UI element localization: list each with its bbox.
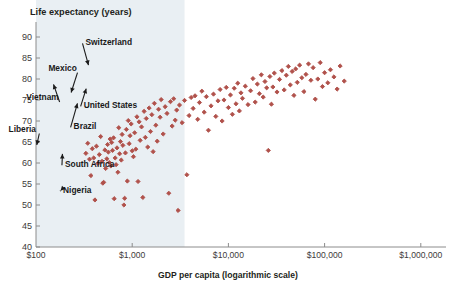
data-point — [234, 102, 238, 106]
x-axis-title: GDP per capita (logarithmic scale) — [158, 270, 298, 280]
y-tick-label: 85 — [22, 53, 32, 63]
data-point — [326, 81, 330, 85]
annotation-arrow — [60, 191, 61, 192]
data-point — [269, 102, 273, 106]
data-point — [211, 92, 215, 96]
data-point — [230, 112, 234, 116]
data-point — [272, 71, 276, 75]
data-point — [275, 90, 279, 94]
data-point — [222, 98, 226, 102]
y-tick-label: 80 — [22, 74, 32, 84]
annotation-label: South Africa — [65, 159, 115, 169]
data-point — [311, 66, 315, 70]
data-point — [200, 89, 204, 93]
annotation-label: Nigeria — [63, 185, 92, 195]
data-point — [216, 99, 220, 103]
data-point — [318, 61, 322, 65]
data-point — [292, 93, 296, 97]
data-point — [204, 95, 208, 99]
data-point — [243, 84, 247, 88]
data-point — [284, 73, 288, 77]
x-tick-label: $100,000 — [307, 250, 343, 260]
data-point — [277, 77, 281, 81]
data-point — [332, 75, 336, 79]
data-point — [309, 78, 313, 82]
data-point — [259, 73, 263, 77]
data-point — [268, 74, 272, 78]
y-tick-label: 65 — [22, 137, 32, 147]
annotation-label: Mexico — [48, 63, 76, 73]
data-point — [202, 110, 206, 114]
data-point — [338, 64, 342, 68]
data-point — [280, 69, 284, 73]
data-point — [295, 80, 299, 84]
data-point — [306, 62, 310, 66]
data-point — [294, 67, 298, 71]
data-point — [255, 82, 259, 86]
x-tick-label: $10,000 — [213, 250, 244, 260]
data-point — [206, 128, 210, 132]
data-point — [271, 85, 275, 89]
data-point — [253, 100, 257, 104]
data-point — [248, 89, 252, 93]
data-point — [185, 173, 189, 177]
data-point — [304, 72, 308, 76]
data-point — [232, 86, 236, 90]
data-point — [328, 68, 332, 72]
data-point — [187, 113, 191, 117]
data-point — [246, 103, 250, 107]
data-point — [196, 117, 200, 121]
x-tick-label: $1,000 — [119, 250, 146, 260]
data-point — [228, 93, 232, 97]
annotation-label: Liberia — [9, 124, 37, 134]
x-tick-label: $100 — [26, 250, 45, 260]
data-point — [300, 76, 304, 80]
data-point — [282, 88, 286, 92]
data-point — [240, 96, 244, 100]
y-tick-label: 90 — [22, 32, 32, 42]
data-point — [290, 69, 294, 73]
annotation-label: United States — [84, 100, 138, 110]
data-point — [323, 71, 327, 75]
y-tick-label: 45 — [22, 221, 32, 231]
scatter-chart: 4045505560657075808590$100$1,000$10,000$… — [0, 0, 452, 285]
data-point — [214, 114, 218, 118]
data-point — [263, 79, 267, 83]
data-point — [251, 76, 255, 80]
data-point — [191, 106, 195, 110]
y-axis-title: Life expectancy (years) — [30, 7, 132, 17]
data-point — [286, 64, 290, 68]
data-point — [209, 104, 213, 108]
y-tick-label: 55 — [22, 179, 32, 189]
data-point — [265, 86, 269, 90]
data-point — [342, 79, 346, 83]
annotation-label: Brazil — [74, 121, 97, 131]
data-point — [197, 100, 201, 104]
data-point — [298, 63, 302, 67]
y-tick-label: 60 — [22, 158, 32, 168]
data-point — [257, 92, 261, 96]
data-point — [335, 87, 339, 91]
x-tick-label: $1,000,000 — [399, 250, 442, 260]
data-point — [316, 77, 320, 81]
data-point — [302, 90, 306, 94]
data-point — [224, 85, 228, 89]
data-point — [226, 105, 230, 109]
data-point — [288, 83, 292, 87]
data-point — [239, 91, 243, 95]
annotation-label: Vietnam — [26, 92, 58, 102]
annotation-label: Switzerland — [85, 37, 132, 47]
data-point — [237, 109, 241, 113]
data-point — [320, 84, 324, 88]
chart-canvas: 4045505560657075808590$100$1,000$10,000$… — [0, 0, 452, 285]
data-point — [236, 81, 240, 85]
data-point — [313, 97, 317, 101]
y-tick-label: 50 — [22, 200, 32, 210]
data-point — [261, 95, 265, 99]
data-point — [266, 148, 270, 152]
data-point — [218, 87, 222, 91]
data-point — [220, 119, 224, 123]
